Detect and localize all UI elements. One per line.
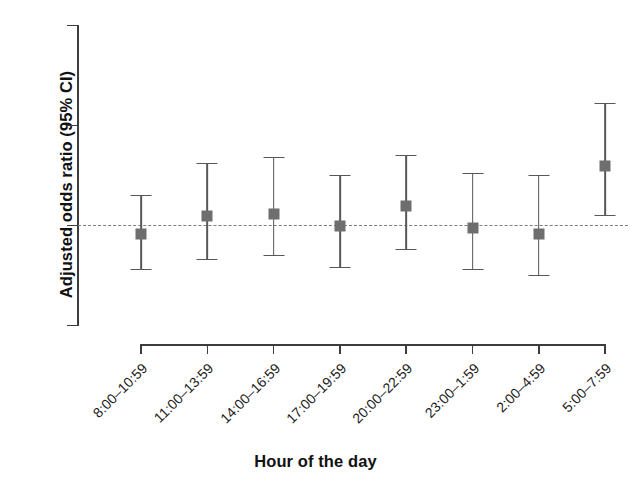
x-axis-tick xyxy=(273,344,275,354)
x-axis-tick xyxy=(405,344,407,354)
odds-ratio-marker xyxy=(467,222,478,233)
ci-upper-cap xyxy=(197,163,218,165)
ci-upper-cap xyxy=(528,175,549,177)
ci-lower-cap xyxy=(396,249,417,251)
ci-upper-cap xyxy=(396,155,417,157)
odds-ratio-marker xyxy=(334,220,345,231)
x-axis-tick xyxy=(207,344,209,354)
confidence-interval-line xyxy=(538,176,540,276)
x-axis-tick xyxy=(339,344,341,354)
ci-lower-cap xyxy=(329,267,350,269)
y-axis-tick xyxy=(67,225,77,227)
x-axis-title: Hour of the day xyxy=(0,452,631,471)
y-axis-tick xyxy=(67,25,77,27)
ci-upper-cap xyxy=(263,157,284,159)
odds-ratio-marker xyxy=(268,208,279,219)
y-axis-tick xyxy=(67,125,77,127)
ci-lower-cap xyxy=(263,255,284,257)
ci-upper-cap xyxy=(595,103,616,105)
x-axis-tick xyxy=(538,344,540,354)
ci-upper-cap xyxy=(462,173,483,175)
ci-upper-cap xyxy=(329,175,350,177)
odds-ratio-marker xyxy=(202,210,213,221)
y-axis-tick xyxy=(67,325,77,327)
x-axis-tick xyxy=(472,344,474,354)
ci-lower-cap xyxy=(197,259,218,261)
x-axis-tick xyxy=(140,344,142,354)
ci-upper-cap xyxy=(131,195,152,197)
plot-area xyxy=(0,0,631,493)
odds-ratio-marker xyxy=(401,200,412,211)
ci-lower-cap xyxy=(131,269,152,271)
odds-ratio-marker xyxy=(600,160,611,171)
x-axis-tick xyxy=(604,344,606,354)
forest-plot-figure: Adjusted odds ratio (95% CI) 0.51.01.52.… xyxy=(0,0,631,493)
reference-line-at-1 xyxy=(78,225,628,226)
odds-ratio-marker xyxy=(136,228,147,239)
confidence-interval-line xyxy=(273,158,275,256)
odds-ratio-marker xyxy=(533,228,544,239)
ci-lower-cap xyxy=(595,215,616,217)
ci-lower-cap xyxy=(528,275,549,277)
ci-lower-cap xyxy=(462,269,483,271)
